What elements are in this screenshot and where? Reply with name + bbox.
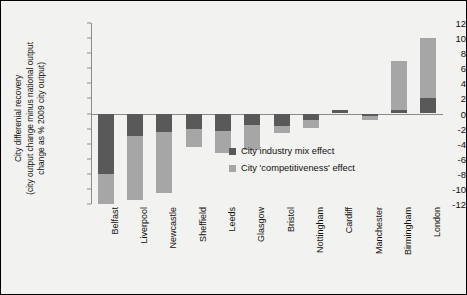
x-tick-label: Manchester <box>374 207 384 285</box>
x-axis-tick-group: BelfastLiverpoolNewcastleSheffieldLeedsG… <box>91 207 443 287</box>
bar-segment-industry-mix <box>244 114 260 125</box>
y-axis-title: City differenial recovery (city output c… <box>13 13 48 223</box>
legend: City industry mix effect City 'competiti… <box>229 146 355 180</box>
legend-swatch-industry-mix <box>229 148 236 155</box>
bar-segment-competitiveness <box>274 126 290 134</box>
x-tick-label: Liverpool <box>139 207 149 285</box>
legend-label-competitiveness: City 'competitiveness' effect <box>241 163 355 173</box>
bar-segment-competitiveness <box>186 129 202 148</box>
x-tick-label: London <box>432 207 442 285</box>
bar-segment-competitiveness <box>127 136 143 200</box>
x-tick-label: Nottingham <box>315 207 325 285</box>
bar-segment-competitiveness <box>156 132 172 192</box>
bar-segment-industry-mix <box>332 110 348 114</box>
bar-stack[interactable] <box>391 23 407 204</box>
bar-segment-industry-mix <box>98 114 114 174</box>
bar-segment-competitiveness <box>362 116 378 120</box>
bar-segment-competitiveness <box>420 38 436 98</box>
bar-stack[interactable] <box>98 23 114 204</box>
bar-segment-industry-mix <box>215 114 231 131</box>
bar-stack[interactable] <box>420 23 436 204</box>
bar-segment-competitiveness <box>303 120 319 128</box>
x-tick-label: Glasgow <box>256 207 266 285</box>
bar-stack[interactable] <box>186 23 202 204</box>
x-tick-label: Bristol <box>286 207 296 285</box>
bar-segment-competitiveness <box>98 174 114 204</box>
x-tick-label: Belfast <box>110 207 120 285</box>
bar-stack[interactable] <box>362 23 378 204</box>
legend-item-competitiveness[interactable]: City 'competitiveness' effect <box>229 163 355 173</box>
x-tick-label: Birmingham <box>403 207 413 285</box>
legend-item-industry-mix[interactable]: City industry mix effect <box>229 146 355 156</box>
x-tick-label: Leeds <box>227 207 237 285</box>
bar-segment-competitiveness <box>391 61 407 111</box>
bar-stack[interactable] <box>127 23 143 204</box>
chart-container: City differenial recovery (city output c… <box>0 0 467 295</box>
bar-segment-industry-mix <box>274 114 290 126</box>
bar-segment-industry-mix <box>391 110 407 113</box>
bar-segment-industry-mix <box>156 114 172 133</box>
x-tick-label: Newcastle <box>168 207 178 285</box>
x-tick-label: Sheffield <box>198 207 208 285</box>
bar-stack[interactable] <box>156 23 172 204</box>
x-tick-label: Cardiff <box>344 207 354 285</box>
bar-segment-industry-mix <box>127 114 143 137</box>
bar-segment-industry-mix <box>420 98 436 113</box>
bar-segment-industry-mix <box>186 114 202 129</box>
legend-label-industry-mix: City industry mix effect <box>241 146 334 156</box>
legend-swatch-competitiveness <box>229 165 236 172</box>
